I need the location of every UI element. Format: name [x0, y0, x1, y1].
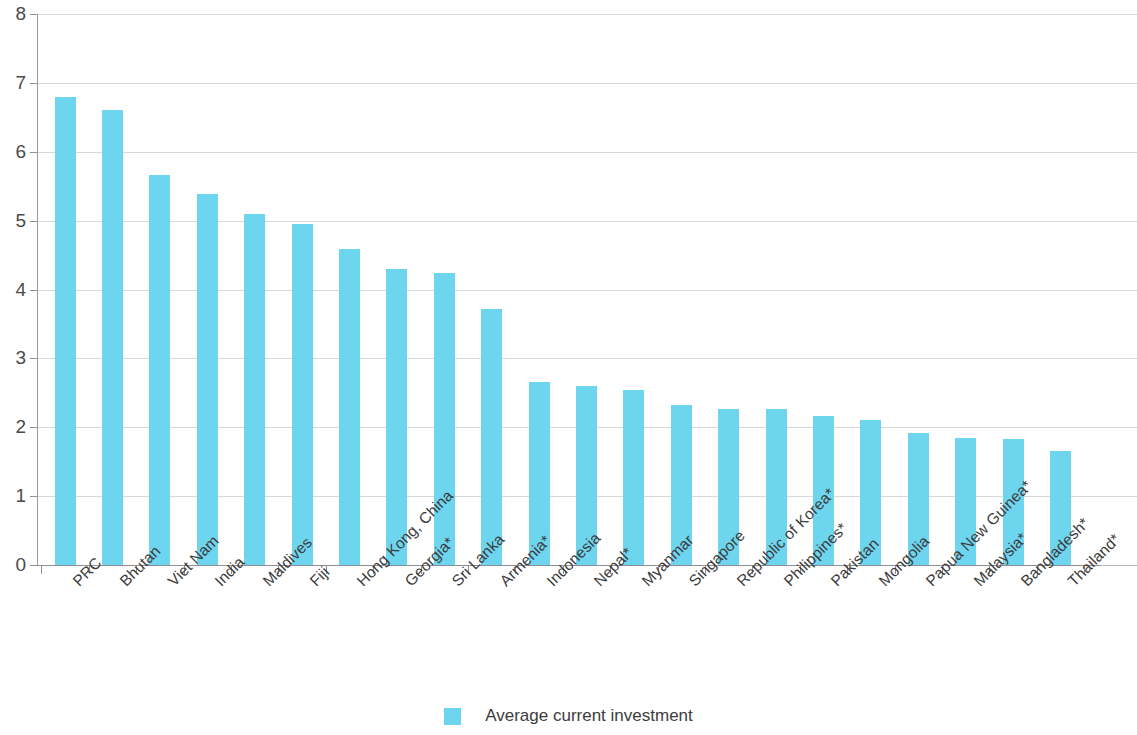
y-axis-tick-label: 0 — [2, 555, 26, 574]
bar — [339, 249, 360, 565]
x-axis-tick-label: Fiji — [307, 564, 333, 590]
bar — [102, 110, 123, 565]
bar — [434, 273, 455, 565]
y-axis-tick — [30, 152, 37, 153]
bar — [55, 97, 76, 565]
y-axis-tick-label: 1 — [2, 486, 26, 505]
bar — [386, 269, 407, 565]
x-axis-tick — [41, 566, 42, 574]
bar — [623, 390, 644, 565]
y-axis-tick-label: 7 — [2, 73, 26, 92]
y-axis-tick — [30, 496, 37, 497]
bars-layer — [37, 14, 1137, 565]
y-axis-tick — [30, 14, 37, 15]
bar — [197, 194, 218, 565]
y-axis-tick-label: 4 — [2, 280, 26, 299]
bar-chart: 012345678 PRCBhutanViet NamIndiaMaldives… — [0, 0, 1137, 735]
y-axis-tick — [30, 83, 37, 84]
legend-swatch — [444, 708, 461, 725]
chart-legend: Average current investment — [0, 706, 1137, 726]
y-axis-tick — [30, 358, 37, 359]
y-axis-tick-label: 6 — [2, 142, 26, 161]
y-axis-tick — [30, 221, 37, 222]
bar — [149, 175, 170, 565]
y-axis-tick — [30, 427, 37, 428]
y-axis-tick-label: 5 — [2, 211, 26, 230]
bar — [292, 224, 313, 565]
legend-label: Average current investment — [485, 706, 693, 726]
bar — [244, 214, 265, 565]
bar — [481, 309, 502, 565]
y-axis-tick-label: 3 — [2, 348, 26, 367]
y-axis-tick-label: 2 — [2, 417, 26, 436]
y-axis-tick-label: 8 — [2, 4, 26, 23]
y-axis-tick — [30, 290, 37, 291]
y-axis-tick — [30, 565, 37, 566]
